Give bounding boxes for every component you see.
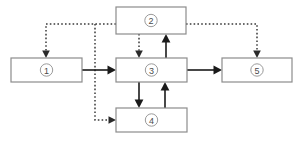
block-diagram: 1 2 3 4 5	[0, 0, 302, 142]
edge-3-to-2	[162, 34, 171, 58]
edge-3-to-5	[187, 66, 222, 75]
edge-2-to-1	[42, 24, 116, 58]
node-4-label: 4	[149, 116, 154, 126]
edge-2-to-3	[135, 34, 143, 58]
node-5-label: 5	[254, 66, 259, 76]
node-2-label: 2	[148, 16, 153, 26]
node-2[interactable]: 2	[116, 7, 186, 34]
node-1[interactable]: 1	[11, 58, 82, 82]
node-1-label: 1	[44, 66, 49, 76]
edge-1-to-3	[82, 66, 116, 75]
edge-2-to-5	[186, 24, 261, 58]
edge-4-to-3	[161, 82, 170, 108]
node-4[interactable]: 4	[116, 108, 187, 132]
node-5[interactable]: 5	[222, 58, 292, 82]
edge-3-to-4	[135, 82, 144, 108]
node-3-label: 3	[149, 66, 154, 76]
diagram-canvas: 1 2 3 4 5	[0, 0, 302, 142]
edge-2-to-4	[95, 24, 116, 124]
node-3[interactable]: 3	[116, 58, 187, 82]
